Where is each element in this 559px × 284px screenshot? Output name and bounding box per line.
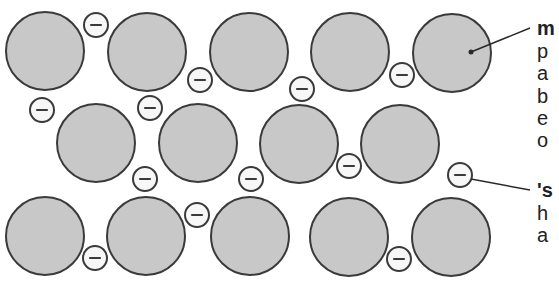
metal-ion	[310, 198, 388, 276]
pointer-line	[471, 179, 530, 190]
metal-ion	[6, 12, 84, 90]
label-line: 's	[537, 180, 553, 200]
metal-ion	[107, 197, 185, 275]
label-line: b	[537, 86, 548, 106]
positive-ions-layer	[6, 12, 491, 276]
electron	[133, 167, 157, 191]
metal-ion	[211, 197, 289, 275]
electron	[83, 246, 107, 270]
electron	[30, 98, 54, 122]
metal-ion	[413, 14, 491, 92]
label-line: o	[537, 130, 548, 150]
label-line: p	[537, 41, 548, 61]
electron	[138, 96, 162, 120]
metal-ion	[412, 198, 490, 276]
electron	[84, 13, 108, 37]
pointer-dot	[469, 50, 474, 55]
electron	[337, 154, 361, 178]
metal-ion	[159, 104, 237, 182]
label-line: a	[537, 225, 548, 245]
metal-ion	[108, 13, 186, 91]
metal-ion	[260, 105, 338, 183]
electron	[390, 63, 414, 87]
electron	[290, 77, 314, 101]
electron	[387, 247, 411, 271]
metal-ion	[57, 104, 135, 182]
metal-ion	[6, 197, 84, 275]
electron	[448, 163, 472, 187]
label-line: a	[537, 63, 548, 83]
metal-ion	[210, 13, 288, 91]
label-line: e	[537, 108, 548, 128]
label-line: h	[537, 203, 548, 223]
electron	[185, 203, 209, 227]
electron	[188, 68, 212, 92]
metal-ion	[311, 13, 389, 91]
label-line: m	[537, 18, 555, 38]
electron	[239, 167, 263, 191]
metal-ion	[361, 105, 439, 183]
